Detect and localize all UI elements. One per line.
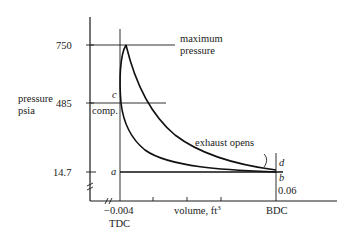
y-tick-label-485: 485 [56, 98, 72, 109]
combustion-curve [120, 45, 126, 103]
max-pressure-label-line2: pressure [180, 45, 215, 56]
max-pressure-label-line1: maximum [180, 33, 223, 44]
y-axis-label-line2: psia [18, 105, 35, 116]
x-tick-label-neg-0-004: −0.004 [104, 205, 134, 216]
point-d-label: d [279, 157, 285, 168]
pv-diagram: 750 485 14.7 pressure psia maximum press… [0, 0, 353, 238]
x-tick-label-0-06: 0.06 [278, 185, 296, 196]
x-axis-label-text: volume, ft [174, 205, 217, 216]
expansion-curve [126, 45, 276, 170]
point-b-label: b [279, 172, 284, 183]
y-tick-label-750: 750 [56, 40, 72, 51]
point-c-label: c [112, 89, 117, 100]
x-axis-label-superscript: 3 [217, 204, 221, 212]
compression-label: comp. [92, 105, 118, 116]
tdc-label: TDC [109, 218, 130, 229]
exhaust-pointer [264, 154, 267, 167]
point-a-label: a [111, 166, 116, 177]
exhaust-opens-label: exhaust opens [195, 137, 254, 148]
bdc-label: BDC [266, 205, 288, 216]
y-axis-label-line1: pressure [18, 93, 53, 104]
x-axis-label: volume, ft3 [174, 204, 221, 216]
y-tick-label-14-7: 14.7 [53, 167, 71, 178]
